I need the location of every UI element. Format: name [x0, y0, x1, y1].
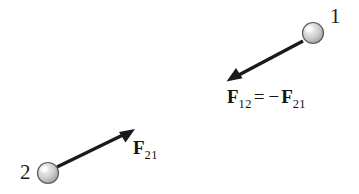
equals-operator: = — [252, 86, 267, 107]
force-12-equation: F12=−F21 — [227, 87, 306, 106]
newtons-third-law-diagram: 1 2 F12=−F21 F21 — [0, 0, 359, 194]
force-21-symbol-rhs: F — [281, 86, 293, 107]
particle-1-body — [303, 23, 324, 44]
vector-force-12-shaft — [235, 41, 303, 77]
vector-force-12 — [227, 41, 304, 82]
force-21-label: F21 — [133, 138, 158, 157]
force-12-subscript: 12 — [239, 97, 252, 111]
vector-force-21 — [57, 129, 135, 167]
minus-sign: − — [266, 86, 281, 107]
particle-2-label: 2 — [20, 162, 31, 183]
particle-1-label: 1 — [330, 6, 341, 27]
particle-1-sphere — [303, 23, 324, 44]
particle-2-highlight — [41, 166, 48, 172]
force-21-subscript: 21 — [145, 148, 158, 162]
particle-2-body — [38, 163, 59, 184]
force-12-symbol: F — [227, 86, 239, 107]
force-21-subscript-rhs: 21 — [293, 97, 306, 111]
particle-2-sphere — [38, 163, 59, 184]
force-21-symbol: F — [133, 137, 145, 158]
particle-1-highlight — [306, 26, 313, 32]
vector-force-21-shaft — [57, 133, 127, 167]
vector-force-12-arrowhead — [227, 68, 243, 82]
